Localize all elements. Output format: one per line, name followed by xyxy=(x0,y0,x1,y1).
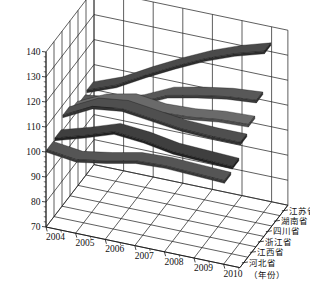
chart-container: 7080901001101201301402004200520062007200… xyxy=(0,0,310,291)
z-tick-label: 河北省 xyxy=(249,258,276,268)
y-tick xyxy=(42,227,46,228)
y-tick-label: 80 xyxy=(31,197,41,207)
y-tick xyxy=(42,177,46,178)
y-tick-label: 140 xyxy=(26,47,41,57)
x-tick-label: 2009 xyxy=(194,263,213,273)
y-tick xyxy=(42,127,46,128)
y-tick-label: 100 xyxy=(26,147,41,157)
z-tick-label: 浙江省 xyxy=(265,237,292,247)
z-tick-label: 江西省 xyxy=(257,247,284,257)
y-tick xyxy=(42,102,46,103)
x-axis-title: （年份） xyxy=(249,270,285,280)
y-tick-label: 90 xyxy=(31,172,41,182)
ribbon-chart-svg: 7080901001101201301402004200520062007200… xyxy=(0,0,310,291)
y-tick xyxy=(42,202,46,203)
y-tick-label: 70 xyxy=(31,222,41,232)
x-tick-label: 2004 xyxy=(46,232,65,242)
x-tick-label: 2005 xyxy=(76,238,95,248)
y-tick xyxy=(42,152,46,153)
z-tick-label: 江苏省 xyxy=(289,206,310,216)
y-tick-label: 110 xyxy=(27,122,41,132)
y-tick xyxy=(42,77,46,78)
x-tick-label: 2008 xyxy=(164,257,183,267)
y-tick xyxy=(42,52,46,53)
x-tick-label: 2007 xyxy=(135,251,154,261)
y-tick-label: 130 xyxy=(26,72,41,82)
x-tick-label: 2010 xyxy=(224,269,243,279)
x-tick-label: 2006 xyxy=(105,244,124,254)
y-tick-label: 120 xyxy=(26,97,41,107)
z-tick-label: 湖南省 xyxy=(281,216,308,226)
z-tick-label: 四川省 xyxy=(273,226,300,236)
